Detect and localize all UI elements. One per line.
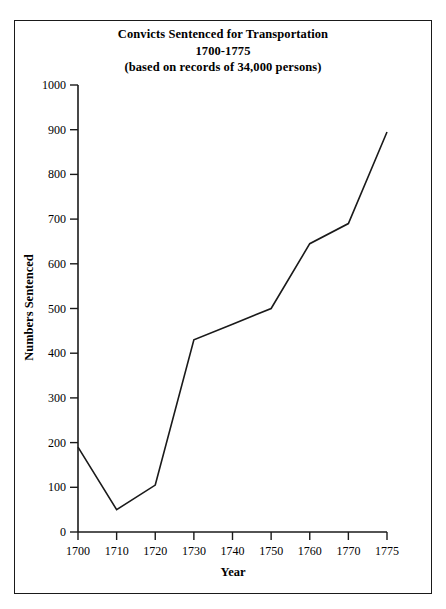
y-tick-label: 800 [20, 168, 66, 180]
y-tick-label: 500 [20, 303, 66, 315]
y-tick-label: 100 [20, 481, 66, 493]
y-tick-label: 600 [20, 258, 66, 270]
chart-figure: Convicts Sentenced for Transportation 17… [0, 0, 446, 609]
y-tick-label: 900 [20, 124, 66, 136]
axis-ticks [70, 85, 387, 540]
y-tick-label: 300 [20, 392, 66, 404]
y-tick-label: 400 [20, 347, 66, 359]
data-series-line [78, 132, 387, 510]
y-tick-label: 1000 [20, 79, 66, 91]
x-axis-title: Year [78, 565, 388, 580]
plot-area [0, 0, 446, 609]
y-tick-label: 0 [20, 526, 66, 538]
axes [78, 85, 387, 532]
y-tick-label: 700 [20, 213, 66, 225]
y-tick-label: 200 [20, 437, 66, 449]
x-tick-label: 1775 [363, 545, 411, 557]
